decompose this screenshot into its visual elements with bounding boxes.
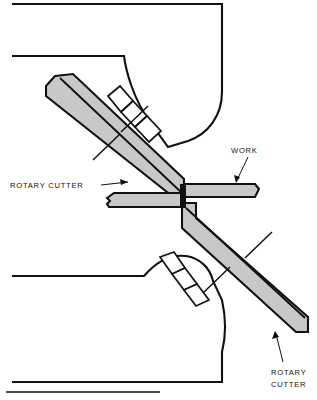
leader-arrowhead xyxy=(272,331,279,339)
label-rotary-cutter-left: ROTARY CUTTER xyxy=(10,181,83,190)
work-left-segment xyxy=(107,193,182,207)
leader-arrowhead xyxy=(120,179,128,185)
lower-housing-outline xyxy=(12,256,225,382)
workpiece-group xyxy=(107,184,259,208)
shear-zone xyxy=(180,184,186,208)
leader-line-rotary-cutter-bottom xyxy=(276,334,283,362)
label-rotary-cutter-bottom-line2: CUTTER xyxy=(271,380,306,389)
label-rotary-cutter-bottom-line1: ROTARY xyxy=(271,368,306,377)
label-work: WORK xyxy=(231,146,258,155)
work-right-segment xyxy=(184,184,259,197)
lower-housing-group xyxy=(12,256,225,382)
lower-cutter-hatch-mark xyxy=(245,232,272,258)
diagram-canvas: ROTARY CUTTER WORK ROTARY CUTTER xyxy=(0,0,317,400)
rotary-cutter-diagram: ROTARY CUTTER WORK ROTARY CUTTER xyxy=(0,0,317,400)
